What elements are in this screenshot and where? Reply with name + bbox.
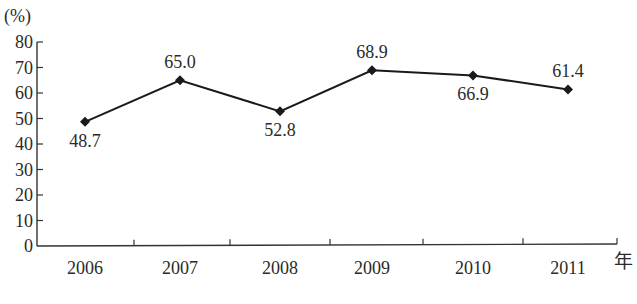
x-tick-label: 2009 <box>354 258 390 278</box>
diamond-marker <box>175 75 185 85</box>
line-chart: 01020304050607080 2006200720082009201020… <box>0 0 637 304</box>
y-tick-label: 80 <box>15 32 33 52</box>
diamond-marker <box>275 106 285 116</box>
y-tick-label: 20 <box>15 185 33 205</box>
data-label: 48.7 <box>69 131 101 151</box>
x-axis-unit-label: 年 <box>614 251 633 272</box>
diamond-marker <box>468 70 478 80</box>
data-label: 61.4 <box>552 61 584 81</box>
series-line <box>85 70 568 122</box>
diamond-marker <box>367 65 377 75</box>
data-series: 48.765.052.868.966.961.4 <box>69 42 584 151</box>
y-axis-unit-label: (%) <box>4 6 31 27</box>
x-tick-label: 2007 <box>162 258 198 278</box>
x-tick-label: 2010 <box>455 258 491 278</box>
y-tick-label: 50 <box>15 109 33 129</box>
y-tick-label: 40 <box>15 134 33 154</box>
y-tick-label: 30 <box>15 160 33 180</box>
diamond-marker <box>563 84 573 94</box>
y-tick-label: 70 <box>15 58 33 78</box>
y-tick-label: 10 <box>15 211 33 231</box>
data-label: 66.9 <box>457 84 489 104</box>
x-tick-label: 2006 <box>67 258 103 278</box>
diamond-marker <box>80 117 90 127</box>
y-tick-label: 60 <box>15 83 33 103</box>
x-axis: 200620072008200920102011 <box>37 238 617 278</box>
data-label: 68.9 <box>356 42 388 62</box>
data-label: 65.0 <box>164 52 196 72</box>
x-tick-label: 2011 <box>550 258 585 278</box>
data-label: 52.8 <box>264 120 296 140</box>
x-tick-label: 2008 <box>262 258 298 278</box>
y-tick-label: 0 <box>24 236 33 256</box>
y-axis: 01020304050607080 <box>15 32 43 256</box>
